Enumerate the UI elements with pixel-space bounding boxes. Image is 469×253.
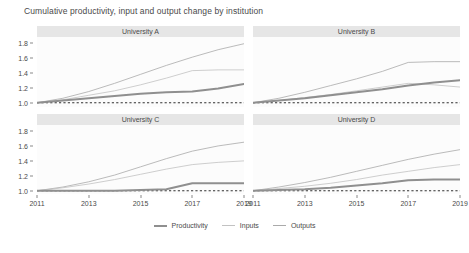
y-tick-mark [30, 103, 33, 104]
x-tick-label: 2015 [349, 200, 365, 207]
chart-title: Cumulative productivity, input and outpu… [24, 6, 263, 16]
panel-strip-label: University B [253, 26, 460, 37]
plot-area [37, 125, 244, 195]
y-tick-label: 1.6 [18, 55, 28, 62]
x-axis: 20112013201520172019 [253, 195, 460, 211]
y-tick-mark [30, 130, 33, 131]
chart-legend: ProductivityInputsOutputs [0, 222, 469, 229]
y-tick-label: 1.8 [18, 127, 28, 134]
x-tick-label: 2019 [452, 200, 468, 207]
y-axis: 1.01.21.41.61.8 [0, 37, 34, 107]
y-tick-label: 1.6 [18, 142, 28, 149]
x-axis: 20112013201520172019 [37, 195, 244, 211]
y-tick-label: 1.4 [18, 70, 28, 77]
y-tick-label: 1.2 [18, 172, 28, 179]
y-axis: 1.01.21.41.61.8 [0, 125, 34, 195]
plot-area [37, 37, 244, 107]
series-line-productivity [253, 179, 460, 190]
series-line-productivity [253, 80, 460, 102]
panel-strip-label: University A [37, 26, 244, 37]
legend-label: Outputs [291, 222, 316, 229]
x-tick-label: 2011 [29, 200, 44, 207]
panel-university-b: University B [253, 26, 460, 107]
legend-swatch-icon [222, 225, 235, 226]
legend-swatch-icon [273, 225, 286, 226]
panel-strip-label: University C [37, 114, 244, 125]
x-tick-mark [460, 195, 461, 198]
y-tick-mark [30, 43, 33, 44]
x-tick-label: 2013 [81, 200, 97, 207]
series-line-inputs [37, 70, 244, 103]
legend-label: Inputs [240, 222, 259, 229]
x-tick-mark [253, 195, 254, 198]
y-tick-mark [30, 190, 33, 191]
y-tick-mark [30, 145, 33, 146]
y-tick-mark [30, 160, 33, 161]
y-tick-mark [30, 58, 33, 59]
legend-item-productivity: Productivity [154, 222, 208, 229]
x-tick-mark [356, 195, 357, 198]
x-tick-mark [88, 195, 89, 198]
series-line-productivity [37, 84, 244, 103]
y-tick-mark [30, 175, 33, 176]
legend-item-outputs: Outputs [273, 222, 316, 229]
x-tick-label: 2011 [245, 200, 260, 207]
x-tick-label: 2017 [184, 200, 200, 207]
series-line-inputs [253, 164, 460, 190]
plot-area [253, 125, 460, 195]
y-tick-label: 1.0 [18, 100, 28, 107]
panel-university-a: University A [37, 26, 244, 107]
y-tick-label: 1.4 [18, 157, 28, 164]
y-tick-label: 1.2 [18, 85, 28, 92]
panel-university-c: University C [37, 114, 244, 195]
x-tick-label: 2013 [297, 200, 313, 207]
y-tick-mark [30, 73, 33, 74]
x-tick-label: 2017 [400, 200, 416, 207]
panel-university-d: University D [253, 114, 460, 195]
x-tick-mark [37, 195, 38, 198]
panel-strip-label: University D [253, 114, 460, 125]
x-tick-mark [192, 195, 193, 198]
x-tick-mark [408, 195, 409, 198]
y-tick-label: 1.0 [18, 187, 28, 194]
legend-label: Productivity [172, 222, 208, 229]
y-tick-mark [30, 88, 33, 89]
plot-area [253, 37, 460, 107]
legend-swatch-icon [154, 225, 167, 227]
x-tick-mark [304, 195, 305, 198]
x-tick-label: 2015 [133, 200, 149, 207]
legend-item-inputs: Inputs [222, 222, 259, 229]
panel-grid: University AUniversity BUniversity CUniv… [37, 26, 460, 194]
x-tick-mark [140, 195, 141, 198]
chart-root: Cumulative productivity, input and outpu… [0, 0, 469, 253]
y-tick-label: 1.8 [18, 40, 28, 47]
x-tick-mark [244, 195, 245, 198]
